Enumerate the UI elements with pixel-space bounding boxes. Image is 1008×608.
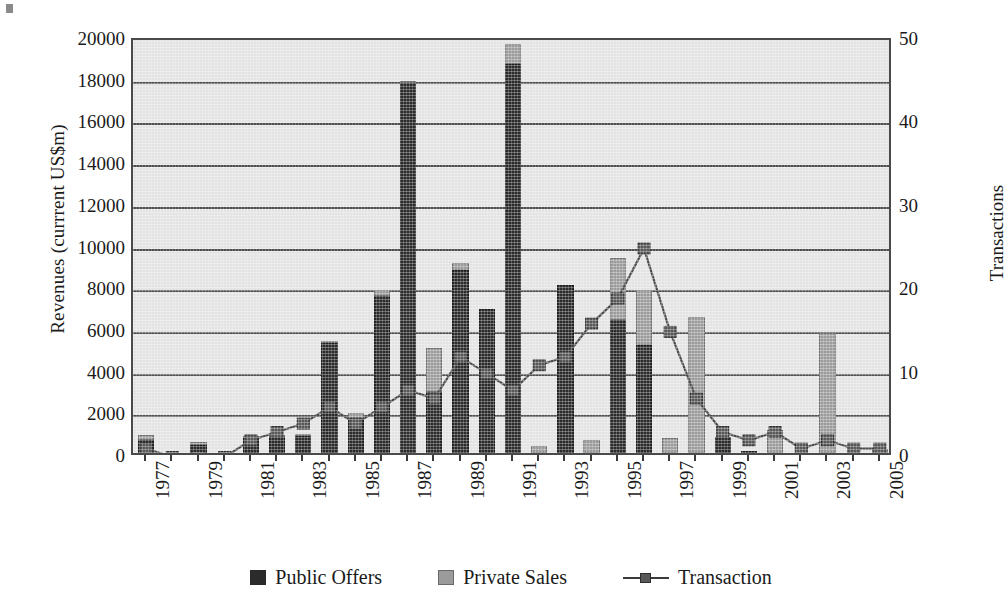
- transaction-data-point: [690, 393, 702, 404]
- x-axis-tick-label: 1981: [257, 461, 279, 499]
- x-axis-tick-mark: [878, 455, 880, 461]
- x-axis-tick-mark: [275, 455, 277, 461]
- transaction-data-point: [743, 435, 755, 446]
- x-axis-tick-mark: [459, 455, 461, 461]
- x-axis-tick-mark: [354, 455, 356, 461]
- x-axis-tick-label: 1979: [205, 461, 227, 499]
- x-axis-tick-mark: [406, 455, 408, 461]
- x-axis-tick-mark: [432, 455, 434, 461]
- transaction-data-point: [822, 435, 834, 446]
- x-axis-tick-label: 2001: [781, 461, 803, 499]
- transaction-data-point: [402, 385, 414, 396]
- transaction-data-point: [297, 418, 309, 429]
- x-axis-tick-label: 1991: [519, 461, 541, 499]
- x-axis-tick-mark: [668, 455, 670, 461]
- transaction-line: [146, 249, 880, 456]
- transaction-data-point: [166, 452, 178, 456]
- x-axis-tick-label: 2005: [886, 461, 908, 499]
- x-axis-tick-mark: [747, 455, 749, 461]
- transaction-data-point: [664, 326, 676, 337]
- y-axis-left-tick-label: 6000: [87, 321, 125, 340]
- x-axis-tick-mark: [642, 455, 644, 461]
- transaction-data-point: [428, 393, 440, 404]
- transaction-line-series: [133, 40, 891, 455]
- y-axis-left-tick-label: 10000: [78, 238, 126, 257]
- y-axis-right-tick-label: 30: [899, 196, 918, 215]
- transaction-data-point: [559, 351, 571, 362]
- y-axis-right-tick-label: 40: [899, 112, 918, 131]
- transaction-data-point: [612, 293, 624, 304]
- x-axis-tick-mark: [144, 455, 146, 461]
- x-axis-tick-mark: [328, 455, 330, 461]
- y-axis-left-ticks: 0200040006000800010000120001400016000180…: [47, 0, 125, 608]
- transaction-data-point: [324, 402, 336, 413]
- transaction-data-point: [795, 443, 807, 454]
- x-axis-tick-mark: [563, 455, 565, 461]
- y-axis-right-title: Transactions: [986, 23, 1008, 443]
- x-axis-tick-mark: [825, 455, 827, 461]
- legend-label: Transaction: [678, 566, 772, 589]
- y-axis-left-tick-label: 20000: [78, 29, 126, 48]
- transaction-data-point: [848, 443, 860, 454]
- x-axis-tick-label: 1997: [676, 461, 698, 499]
- x-axis-tick-mark: [799, 455, 801, 461]
- x-axis-tick-label: 1993: [571, 461, 593, 499]
- x-axis-tick-mark: [590, 455, 592, 461]
- x-axis-tick-label: 1989: [467, 461, 489, 499]
- y-axis-left-tick-label: 14000: [78, 154, 126, 173]
- legend-swatch-private-sales-icon: [438, 570, 454, 585]
- x-axis-tick-mark: [852, 455, 854, 461]
- x-axis-tick-label: 1985: [362, 461, 384, 499]
- y-axis-left-tick-label: 4000: [87, 363, 125, 382]
- legend-label: Private Sales: [463, 566, 567, 589]
- legend-item[interactable]: Private Sales: [438, 566, 567, 589]
- x-axis-ticks: 1977197919811983198519871989199119931995…: [131, 461, 891, 551]
- transaction-data-point: [245, 435, 257, 446]
- x-axis-tick-label: 1983: [309, 461, 331, 499]
- transaction-data-point: [376, 402, 388, 413]
- x-axis-tick-label: 2003: [833, 461, 855, 499]
- transaction-data-point: [271, 427, 283, 438]
- transaction-data-point: [769, 427, 781, 438]
- y-axis-left-tick-label: 0: [116, 446, 126, 465]
- chart-legend: Public OffersPrivate SalesTransaction: [131, 566, 891, 589]
- y-axis-right-tick-label: 50: [899, 29, 918, 48]
- transaction-data-point: [586, 318, 598, 329]
- x-axis-tick-mark: [616, 455, 618, 461]
- y-axis-left-tick-label: 2000: [87, 404, 125, 423]
- x-axis-tick-label: 1977: [152, 461, 174, 499]
- legend-item[interactable]: Public Offers: [250, 566, 382, 589]
- scan-artifact: [6, 4, 13, 13]
- x-axis-tick-mark: [721, 455, 723, 461]
- transaction-data-point: [350, 418, 362, 429]
- x-axis-tick-mark: [223, 455, 225, 461]
- transaction-data-point: [638, 243, 650, 254]
- x-axis-tick-mark: [249, 455, 251, 461]
- x-axis-tick-mark: [694, 455, 696, 461]
- y-axis-right-tick-label: 10: [899, 363, 918, 382]
- x-axis-tick-mark: [773, 455, 775, 461]
- x-axis-tick-mark: [301, 455, 303, 461]
- y-axis-right-tick-label: 20: [899, 279, 918, 298]
- transaction-data-point: [455, 351, 467, 362]
- x-axis-tick-mark: [537, 455, 539, 461]
- x-axis-tick-label: 1995: [624, 461, 646, 499]
- x-axis-tick-mark: [485, 455, 487, 461]
- transaction-data-point: [533, 360, 545, 371]
- legend-swatch-public-offers-icon: [250, 570, 266, 585]
- y-axis-left-tick-label: 16000: [78, 112, 126, 131]
- x-axis-tick-mark: [511, 455, 513, 461]
- y-axis-left-tick-label: 8000: [87, 279, 125, 298]
- x-axis-tick-label: 1999: [729, 461, 751, 499]
- transaction-data-point: [140, 443, 152, 454]
- legend-item[interactable]: Transaction: [623, 566, 772, 589]
- transaction-data-point: [481, 368, 493, 379]
- plot-area: [131, 38, 891, 455]
- x-axis-tick-mark: [380, 455, 382, 461]
- transaction-data-point: [717, 427, 729, 438]
- transaction-data-point: [874, 443, 886, 454]
- y-axis-left-tick-label: 18000: [78, 71, 126, 90]
- legend-label: Public Offers: [275, 566, 382, 589]
- y-axis-left-tick-label: 12000: [78, 196, 126, 215]
